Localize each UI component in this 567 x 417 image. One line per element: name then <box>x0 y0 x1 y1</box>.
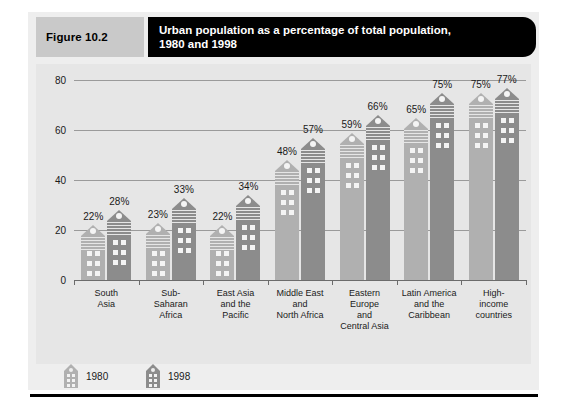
building-window <box>410 158 415 163</box>
building-window <box>436 123 441 128</box>
building-stripe-line <box>301 156 325 157</box>
building-stripe-line <box>107 228 131 229</box>
building-window <box>160 251 165 256</box>
building-window <box>281 210 286 215</box>
building-stripe-line <box>172 213 196 214</box>
building-window <box>95 271 100 276</box>
figure-number-box: Figure 10.2 <box>36 17 144 57</box>
building-window <box>113 240 118 245</box>
building-stripe-line <box>172 219 196 220</box>
building-window <box>436 143 441 148</box>
legend-building-window <box>72 379 75 382</box>
bar-value-label: 57% <box>293 124 333 135</box>
building-window <box>380 145 385 150</box>
building-window <box>444 133 449 138</box>
building-stripe-line <box>340 157 364 158</box>
gridline <box>74 180 526 181</box>
building-stripe-line <box>366 130 390 131</box>
building-window <box>121 260 126 265</box>
legend-label: 1998 <box>168 371 190 382</box>
bar: 22% <box>210 225 234 280</box>
building-stripe-line <box>469 105 493 106</box>
building-stripes <box>275 171 299 186</box>
building-window <box>152 261 157 266</box>
figure-number-label: Figure 10.2 <box>46 31 108 43</box>
bar-value-label: 28% <box>99 196 139 207</box>
building-window <box>410 148 415 153</box>
bar: 28% <box>107 210 131 280</box>
building-stripe-line <box>366 139 390 140</box>
building-stripe-line <box>81 237 105 238</box>
building-window <box>418 148 423 153</box>
building-window <box>178 228 183 233</box>
y-axis-tick-label: 60 <box>36 125 66 136</box>
building-stripe-line <box>366 133 390 134</box>
bar: 66% <box>366 115 390 280</box>
building-stripe-line <box>404 142 428 143</box>
building-window <box>178 238 183 243</box>
building-window <box>475 143 480 148</box>
building-window <box>418 168 423 173</box>
building-stripe-line <box>469 108 493 109</box>
building-windows <box>146 247 170 280</box>
bar-value-label: 75% <box>422 79 462 90</box>
building-windows <box>469 119 493 152</box>
building-stripe-line <box>81 240 105 241</box>
building-window <box>178 248 183 253</box>
gridline <box>74 230 526 231</box>
bar: 65% <box>404 118 428 281</box>
legend-building-window <box>67 384 70 387</box>
building-stripe-line <box>340 151 364 152</box>
building-window <box>289 210 294 215</box>
x-axis-tick <box>461 280 462 285</box>
building-stripe-line <box>469 114 493 115</box>
x-axis-tick <box>332 280 333 285</box>
building-stripe-line <box>404 130 428 131</box>
building-stripe-line <box>366 136 390 137</box>
building-window <box>152 271 157 276</box>
building-windows <box>366 141 390 174</box>
building-window <box>186 248 191 253</box>
building-stripe-line <box>210 240 234 241</box>
building-window <box>216 251 221 256</box>
legend-building-window <box>67 379 70 382</box>
building-stripe-line <box>275 175 299 176</box>
building-window <box>483 133 488 138</box>
building-stripe-line <box>172 210 196 211</box>
building-stripe-line <box>495 112 519 113</box>
building-window <box>250 235 255 240</box>
building-stripe-line <box>301 159 325 160</box>
building-window <box>372 165 377 170</box>
building-window <box>509 138 514 143</box>
building-window <box>281 190 286 195</box>
building-window <box>160 261 165 266</box>
building-stripe-line <box>469 117 493 118</box>
building-window <box>372 155 377 160</box>
x-axis-line <box>74 280 526 281</box>
building-window <box>346 163 351 168</box>
building-window <box>250 225 255 230</box>
building-windows <box>340 159 364 192</box>
bar: 48% <box>275 160 299 280</box>
building-windows <box>495 114 519 147</box>
building-stripe-line <box>430 117 454 118</box>
bar: 77% <box>495 88 519 281</box>
building-stripe-line <box>236 216 260 217</box>
x-axis-tick <box>397 280 398 285</box>
legend-building-window <box>72 374 75 377</box>
building-window <box>380 165 385 170</box>
building-stripes <box>107 221 131 236</box>
building-stripes <box>301 149 325 164</box>
building-roof-dot-icon <box>284 163 290 169</box>
building-windows <box>210 247 234 280</box>
x-axis-tick <box>74 280 75 285</box>
building-windows <box>275 186 299 219</box>
building-window <box>444 123 449 128</box>
building-stripe-line <box>275 181 299 182</box>
building-stripe-line <box>146 235 170 236</box>
building-stripes <box>495 99 519 114</box>
building-window <box>354 183 359 188</box>
figure-title-box: Urban population as a percentage of tota… <box>148 17 536 57</box>
y-axis-tick-label: 40 <box>36 175 66 186</box>
building-windows <box>172 224 196 257</box>
